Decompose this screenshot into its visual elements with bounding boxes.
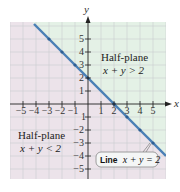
y-tick-label: −2 — [73, 124, 84, 135]
inequality-graph: x y −5 −4 −3 −2 −1 1 2 3 4 5 5 4 3 2 1 1… — [0, 0, 180, 192]
y-tick-label: 5 — [79, 33, 84, 44]
y-axis-arrow-icon — [86, 16, 91, 23]
y-tick-label: −3 — [73, 137, 84, 148]
x-tick-label: −3 — [42, 105, 53, 116]
y-tick-label: 3 — [79, 59, 84, 70]
x-tick-label: 1 — [99, 105, 104, 116]
y-tick-label: 2 — [79, 72, 84, 83]
line-label-math: x + y = 2 — [122, 154, 160, 165]
x-axis-arrow-icon — [165, 102, 172, 107]
lower-region-title: Half-plane — [18, 129, 65, 141]
x-tick-label: −5 — [16, 105, 27, 116]
upper-region-title: Half-plane — [101, 51, 148, 63]
line-label-prefix: Line — [100, 155, 118, 165]
x-tick-label: 5 — [151, 105, 156, 116]
x-tick-label: 2 — [112, 105, 117, 116]
x-tick-label: 4 — [138, 105, 143, 116]
x-tick-label: −2 — [55, 105, 66, 116]
y-tick-label: 1 — [79, 85, 84, 96]
x-axis-label: x — [173, 97, 179, 109]
x-tick-label: 3 — [125, 105, 130, 116]
upper-region-inequality: x + y > 2 — [102, 64, 145, 76]
y-tick-label: 1 — [81, 111, 86, 122]
lower-region-inequality: x + y < 2 — [19, 142, 62, 154]
y-tick-label: 4 — [79, 46, 84, 57]
x-tick-label: −1 — [68, 105, 79, 116]
y-tick-label: −5 — [73, 163, 84, 174]
y-axis-label: y — [83, 3, 89, 15]
line-label: Line x + y = 2 — [100, 154, 160, 165]
x-tick-label: −4 — [29, 105, 40, 116]
y-tick-label: −4 — [73, 150, 84, 161]
